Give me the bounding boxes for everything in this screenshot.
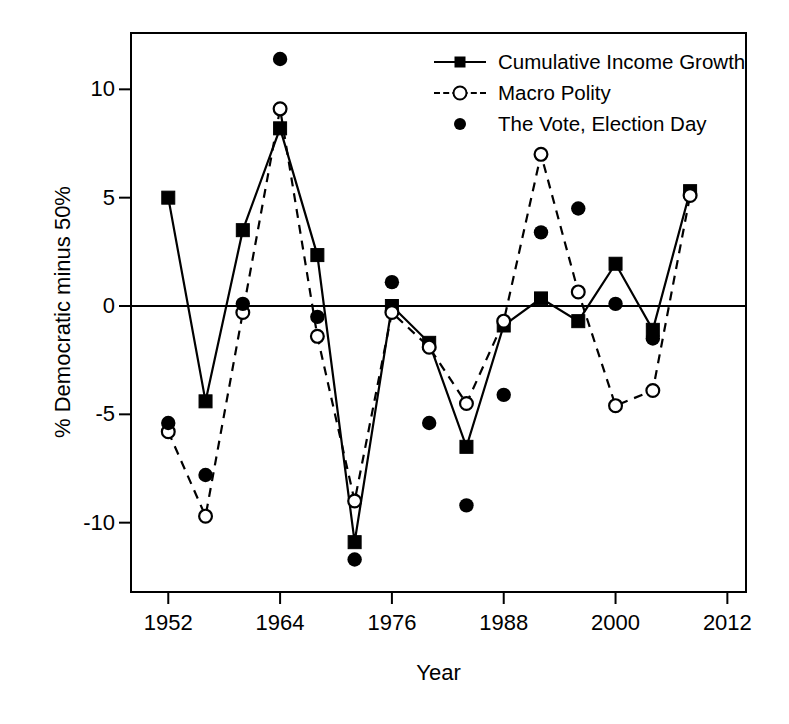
data-point <box>310 310 324 324</box>
chart-figure: % Democratic minus 50% Year 195219641976… <box>0 0 789 724</box>
data-point <box>535 148 548 161</box>
data-point <box>348 536 361 549</box>
x-tick-label-1988: 1988 <box>479 610 528 636</box>
legend-label-0: Cumulative Income Growth <box>488 50 745 74</box>
x-tick-label-1964: 1964 <box>256 610 305 636</box>
data-point <box>236 224 249 237</box>
data-point <box>646 331 660 345</box>
data-point <box>198 468 212 482</box>
data-point <box>684 189 697 202</box>
data-point <box>646 384 659 397</box>
data-point <box>273 52 287 66</box>
y-tick-label--5: -5 <box>53 401 115 427</box>
x-tick-label-1976: 1976 <box>367 610 416 636</box>
data-point <box>348 495 361 508</box>
data-point <box>423 341 436 354</box>
series-line-0 <box>168 128 690 542</box>
y-tick-label-0: 0 <box>53 293 115 319</box>
data-point <box>534 225 548 239</box>
data-point <box>460 440 473 453</box>
data-point <box>274 122 287 135</box>
data-point <box>571 201 585 215</box>
data-point <box>199 510 212 523</box>
legend-key-dot-icon <box>432 110 488 138</box>
data-point <box>274 102 287 115</box>
data-point <box>385 275 399 289</box>
data-point <box>311 249 324 262</box>
legend-item-cumulative-income-growth: Cumulative Income Growth <box>432 46 742 77</box>
data-point <box>497 315 510 328</box>
data-point <box>608 297 622 311</box>
data-point <box>609 399 622 412</box>
data-point <box>459 498 473 512</box>
data-point <box>311 330 324 343</box>
data-point <box>535 292 548 305</box>
data-point <box>609 257 622 270</box>
data-point <box>347 552 361 566</box>
data-point <box>162 191 175 204</box>
legend-label-1: Macro Polity <box>488 81 611 105</box>
legend-item-macro-polity: Macro Polity <box>432 77 742 108</box>
legend-label-2: The Vote, Election Day <box>488 112 707 136</box>
legend-item-the-vote-election-day: The Vote, Election Day <box>432 108 742 139</box>
data-point <box>236 297 250 311</box>
y-tick-label--10: -10 <box>53 510 115 536</box>
legend-key-line-square-icon <box>432 48 488 76</box>
chart-legend: Cumulative Income Growth Macro Polity Th… <box>432 46 742 139</box>
data-point <box>199 395 212 408</box>
x-tick-label-1952: 1952 <box>144 610 193 636</box>
y-tick-label-10: 10 <box>53 76 115 102</box>
y-tick-label-5: 5 <box>53 185 115 211</box>
data-point <box>386 306 399 319</box>
data-point <box>572 286 585 299</box>
x-axis-label: Year <box>131 660 746 686</box>
data-point <box>497 388 511 402</box>
data-point <box>460 397 473 410</box>
x-tick-label-2012: 2012 <box>703 610 752 636</box>
data-point <box>422 416 436 430</box>
legend-key-dashed-circle-icon <box>432 79 488 107</box>
x-tick-label-2000: 2000 <box>591 610 640 636</box>
data-point <box>572 315 585 328</box>
data-point <box>161 416 175 430</box>
